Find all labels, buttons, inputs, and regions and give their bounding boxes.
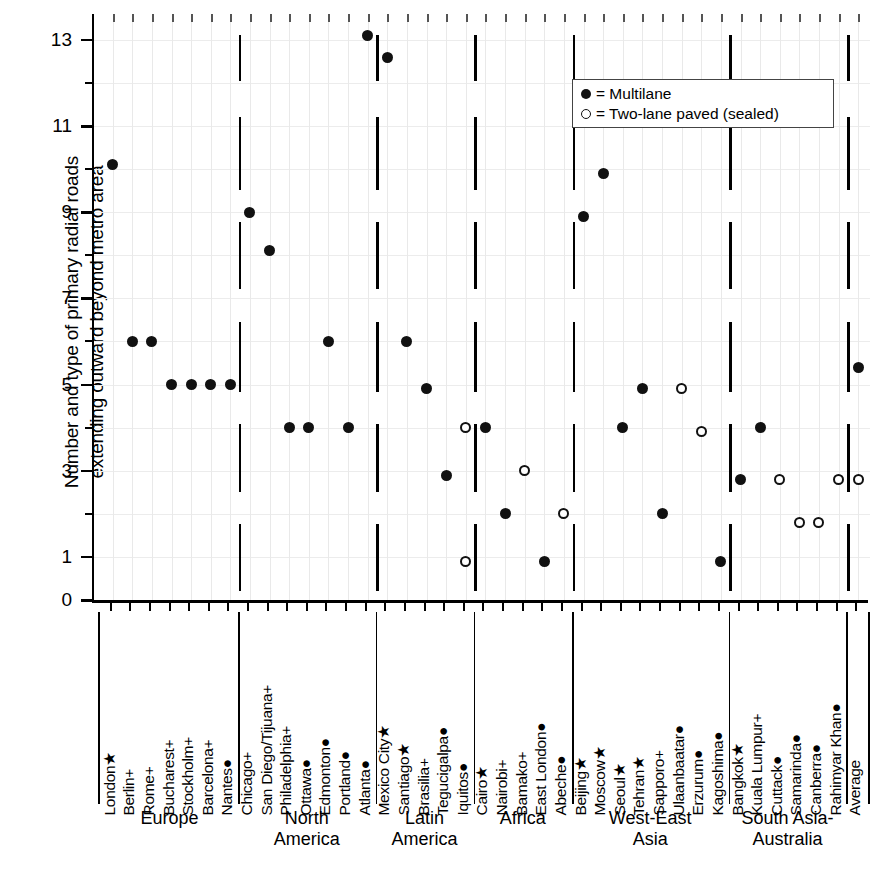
group-label-line: America xyxy=(335,829,515,850)
x-axis-top-tick xyxy=(819,14,821,22)
x-axis-top-tick xyxy=(446,14,448,22)
x-axis-category-label: Nairobi+ xyxy=(494,759,510,815)
data-point-multilane xyxy=(735,474,746,485)
gridline-vertical xyxy=(132,14,133,600)
gridline-vertical xyxy=(289,14,290,600)
gridline-vertical xyxy=(172,14,173,600)
x-axis-tick xyxy=(757,602,759,611)
gridline-vertical xyxy=(211,14,212,600)
x-axis-category-label: Erzurum● xyxy=(690,749,706,815)
gridline-vertical xyxy=(152,14,153,600)
data-point-two-lane xyxy=(460,556,471,567)
x-axis-category-label: Sapporo+ xyxy=(651,750,667,815)
data-point-multilane xyxy=(205,379,216,390)
group-separator-line xyxy=(846,612,848,804)
x-axis-tick xyxy=(482,602,484,611)
data-point-multilane xyxy=(186,379,197,390)
chart-figure: Number and type of primary radial roads … xyxy=(0,0,884,873)
group-divider-dashed xyxy=(474,524,477,591)
x-axis-top-tick xyxy=(741,14,743,22)
x-axis-top-tick xyxy=(485,14,487,22)
group-divider-dashed xyxy=(376,322,379,392)
gridline-vertical xyxy=(309,14,310,600)
x-axis-tick xyxy=(443,602,445,611)
gridline-vertical xyxy=(328,14,329,600)
x-axis-top-tick xyxy=(230,14,232,22)
data-point-multilane xyxy=(303,422,314,433)
group-divider-dashed xyxy=(573,524,576,591)
y-axis-tick-major xyxy=(81,39,94,42)
x-axis-tick xyxy=(718,602,720,611)
data-point-two-lane xyxy=(558,508,569,519)
data-point-multilane xyxy=(853,362,864,373)
x-axis-category-label: Chicago+ xyxy=(238,751,254,815)
data-point-multilane xyxy=(146,336,157,347)
group-divider-dashed xyxy=(376,524,379,591)
x-axis-category-label: Samarinda● xyxy=(788,734,804,815)
x-axis-category-label: Brasilia+ xyxy=(415,758,431,815)
x-axis-tick xyxy=(698,602,700,611)
group-divider-dashed xyxy=(729,322,732,392)
data-point-multilane xyxy=(284,422,295,433)
x-axis-tick xyxy=(384,602,386,611)
data-point-two-lane xyxy=(676,383,687,394)
group-divider-dashed xyxy=(474,322,477,392)
group-divider-dashed xyxy=(573,322,576,392)
x-axis-category-label: Bucharest+ xyxy=(160,739,176,815)
legend-marker-filled-icon xyxy=(581,89,591,99)
x-axis-tick xyxy=(561,602,563,611)
x-axis-category-label: Stockholm+ xyxy=(180,737,196,815)
x-axis-category-label: London★ xyxy=(101,751,117,815)
x-axis-top-tick xyxy=(250,14,252,22)
group-divider-dashed xyxy=(847,322,850,392)
x-axis-category-label: Atlanta● xyxy=(356,760,372,815)
gridline-vertical xyxy=(858,14,859,600)
data-point-multilane xyxy=(755,422,766,433)
chart-legend: = Multilane = Two-lane paved (sealed) xyxy=(572,79,834,128)
y-axis-tick-major xyxy=(81,556,94,559)
x-axis-category-label: Kuala Lumpur+ xyxy=(749,713,765,815)
group-divider-dashed xyxy=(729,424,732,491)
x-axis-top-tick xyxy=(368,14,370,22)
x-axis-top-tick xyxy=(466,14,468,22)
y-axis-tick-label: 9 xyxy=(32,202,72,221)
x-axis-category-label: Moscow★ xyxy=(592,746,608,815)
y-axis-tick-major xyxy=(81,297,94,300)
x-axis-tick xyxy=(149,602,151,611)
group-divider-dashed xyxy=(239,35,242,82)
x-axis-category-label: Cuttack● xyxy=(768,755,784,815)
x-axis-top-tick xyxy=(328,14,330,22)
x-axis-tick xyxy=(424,602,426,611)
data-point-two-lane xyxy=(794,517,805,528)
x-axis-tick xyxy=(129,602,131,611)
y-axis-tick-minor xyxy=(85,427,94,429)
group-divider-dashed xyxy=(847,424,850,491)
legend-label-two-lane: = Two-lane paved (sealed) xyxy=(596,104,779,124)
gridline-vertical xyxy=(368,14,369,600)
x-axis-top-tick xyxy=(839,14,841,22)
x-axis-category-label: Santiago★ xyxy=(395,743,411,816)
x-axis-tick xyxy=(110,602,112,611)
y-axis-tick-label: 1 xyxy=(32,547,72,566)
y-axis-tick-major xyxy=(81,384,94,387)
x-axis-tick xyxy=(816,602,818,611)
x-axis-tick xyxy=(541,602,543,611)
x-axis-category-label: Average xyxy=(847,760,863,815)
x-axis-tick xyxy=(581,602,583,611)
y-axis-tick-label: 0 xyxy=(32,590,72,609)
y-axis-tick-major xyxy=(81,211,94,214)
group-separator-line xyxy=(376,612,378,804)
x-axis-tick xyxy=(188,602,190,611)
data-point-multilane xyxy=(244,207,255,218)
x-axis-category-label: Bangkok★ xyxy=(729,743,745,815)
x-axis-top-tick xyxy=(603,14,605,22)
group-separator-line xyxy=(729,612,731,804)
gridline-vertical xyxy=(230,14,231,600)
gridline-vertical xyxy=(348,14,349,600)
data-point-multilane xyxy=(127,336,138,347)
group-divider-dashed xyxy=(847,35,850,82)
x-axis-tick xyxy=(169,602,171,611)
x-axis-top-tick xyxy=(701,14,703,22)
data-point-multilane xyxy=(480,422,491,433)
x-axis-top-tick xyxy=(564,14,566,22)
